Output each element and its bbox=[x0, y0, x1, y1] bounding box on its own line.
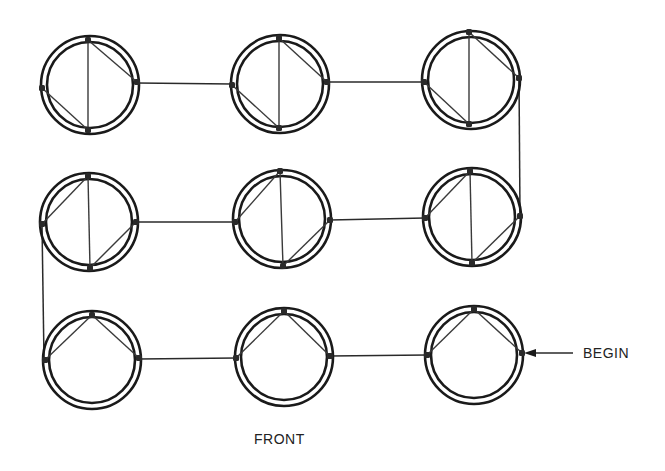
coil-cells bbox=[39, 29, 525, 409]
inner-ring bbox=[237, 41, 323, 127]
terminal-node-left bbox=[229, 82, 235, 88]
inner-ring bbox=[241, 314, 327, 400]
terminal-node-top bbox=[471, 306, 477, 312]
inner-ring bbox=[431, 312, 517, 398]
terminal-node-left bbox=[39, 221, 45, 227]
coil-cell-r1c1 bbox=[39, 36, 140, 134]
terminal-node-top bbox=[89, 312, 95, 318]
outer-ring bbox=[43, 311, 141, 409]
terminal-node-top bbox=[277, 168, 283, 174]
terminal-node-right bbox=[327, 217, 333, 223]
terminal-node-bottom bbox=[466, 121, 472, 127]
begin-label: BEGIN bbox=[583, 345, 629, 361]
terminal-node-right bbox=[324, 79, 330, 85]
terminal-node-top bbox=[466, 29, 472, 35]
chord-top-right bbox=[92, 315, 139, 358]
chord-top-right bbox=[279, 38, 327, 82]
coil-cell-r3c2 bbox=[233, 308, 333, 406]
inner-ring bbox=[49, 317, 135, 403]
terminal-node-right bbox=[136, 355, 142, 361]
chord-top-right bbox=[284, 311, 330, 356]
arrow-head-icon bbox=[524, 349, 536, 357]
chord-top-bottom bbox=[88, 176, 90, 268]
wire-4 bbox=[330, 218, 425, 220]
terminal-node-right bbox=[517, 213, 523, 219]
front-label: FRONT bbox=[254, 431, 305, 447]
chord-top-right bbox=[88, 40, 137, 82]
outer-ring bbox=[235, 308, 333, 406]
chord-top-right bbox=[474, 309, 522, 353]
wire-7 bbox=[139, 358, 236, 359]
terminal-node-left bbox=[421, 79, 427, 85]
wire-8 bbox=[330, 355, 427, 356]
chord-right-bottom bbox=[283, 220, 330, 266]
terminal-node-bottom bbox=[85, 127, 91, 133]
chord-left-top bbox=[235, 171, 280, 222]
terminal-node-right bbox=[327, 353, 333, 359]
terminal-node-top bbox=[281, 308, 287, 314]
terminal-node-right bbox=[516, 75, 522, 81]
chord-top-right bbox=[469, 32, 519, 78]
inner-ring bbox=[47, 42, 133, 128]
begin-arrow-icon bbox=[524, 349, 573, 357]
terminal-node-top bbox=[85, 173, 91, 179]
coil-cell-r3c1 bbox=[42, 311, 142, 409]
coil-cell-r1c2 bbox=[229, 35, 330, 133]
coil-cell-r2c2 bbox=[232, 168, 333, 269]
terminal-node-left bbox=[232, 219, 238, 225]
terminal-node-top bbox=[276, 35, 282, 41]
terminal-node-bottom bbox=[87, 265, 93, 271]
terminal-node-left bbox=[424, 352, 430, 358]
chord-left-bottom bbox=[42, 88, 88, 130]
coil-wiring-diagram bbox=[0, 0, 665, 471]
outer-ring bbox=[422, 31, 520, 129]
coil-cell-r1c3 bbox=[421, 29, 522, 129]
chord-right-bottom bbox=[472, 216, 520, 263]
chord-left-top bbox=[45, 315, 92, 360]
terminal-node-left bbox=[233, 355, 239, 361]
coil-cell-r2c1 bbox=[39, 173, 139, 271]
terminal-node-top bbox=[85, 37, 91, 43]
terminal-node-right bbox=[133, 219, 139, 225]
chord-left-bottom bbox=[424, 82, 469, 124]
wire-1 bbox=[137, 83, 232, 84]
chord-top-bottom bbox=[470, 171, 472, 263]
inner-ring bbox=[428, 37, 514, 123]
outer-ring bbox=[231, 35, 329, 133]
coil-cell-r3c3 bbox=[424, 306, 525, 404]
terminal-node-bottom bbox=[280, 263, 286, 269]
chord-right-bottom bbox=[90, 222, 136, 268]
outer-ring bbox=[425, 306, 523, 404]
terminal-node-left bbox=[39, 85, 45, 91]
outer-ring bbox=[41, 36, 139, 134]
terminal-node-left bbox=[42, 357, 48, 363]
terminal-node-left bbox=[422, 215, 428, 221]
chord-left-top bbox=[236, 311, 284, 358]
terminal-node-right bbox=[134, 79, 140, 85]
wire-6 bbox=[42, 224, 44, 360]
chord-left-top bbox=[425, 171, 470, 218]
chord-left-top bbox=[427, 309, 474, 355]
chord-left-bottom bbox=[232, 85, 279, 128]
chord-left-top bbox=[42, 176, 88, 224]
chord-top-bottom bbox=[280, 171, 283, 266]
terminal-node-bottom bbox=[469, 260, 475, 266]
coil-cell-r2c3 bbox=[422, 168, 523, 266]
wire-3 bbox=[519, 78, 520, 216]
terminal-node-bottom bbox=[276, 125, 282, 131]
terminal-node-top bbox=[467, 168, 473, 174]
